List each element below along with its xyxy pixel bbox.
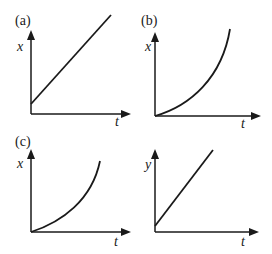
curve-b [155,29,230,116]
panel-label-c: (c) [15,134,31,150]
x-axis-arrow-icon-d [249,228,259,236]
curve-a [31,15,111,104]
y-axis-label-b: x [144,39,152,54]
y-axis-label-d: y [143,157,152,172]
panel-a: (a) x t [15,13,131,129]
x-axis-label-a: t [115,114,120,129]
panel-c: (c) x t [15,134,131,249]
curve-d [155,150,213,226]
x-axis-label-d: t [241,234,246,249]
curve-c [31,161,100,232]
x-axis-arrow-icon-c [121,228,131,236]
y-axis-arrow-icon-c [27,149,35,159]
x-axis-label-c: t [114,234,119,249]
x-axis-arrow-icon-b [251,112,261,120]
y-axis-arrow-icon-a [27,30,35,40]
x-axis-label-b: t [241,116,246,131]
panel-d: y t [143,149,259,249]
y-axis-arrow-icon-d [151,149,159,159]
panel-label-a: (a) [15,13,31,29]
y-axis-arrow-icon-b [151,32,159,42]
panel-b: (b) x t [141,13,261,131]
panel-label-b: (b) [141,13,158,29]
graph-figure: (a) x t (b) x t (c) x t y t [0,0,272,254]
x-axis-arrow-icon-a [121,110,131,118]
y-axis-label-a: x [16,39,24,54]
y-axis-label-c: x [16,156,24,171]
